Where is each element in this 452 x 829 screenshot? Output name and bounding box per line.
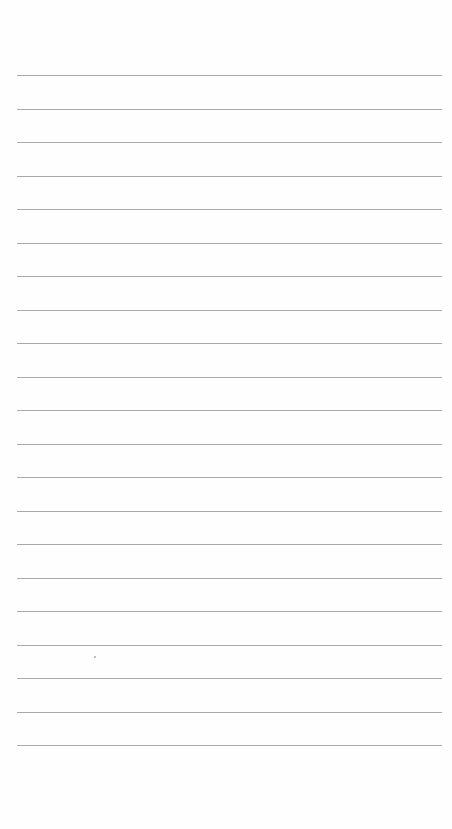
ruled-line: [17, 477, 442, 478]
ruled-line: [17, 142, 442, 143]
ruled-line: [17, 109, 442, 110]
ruled-line: [17, 712, 442, 713]
ruled-line: [17, 176, 442, 177]
ruled-line: [17, 645, 442, 646]
ruled-line: [17, 611, 442, 612]
ruled-line: [17, 243, 442, 244]
ruled-line: [17, 444, 442, 445]
ruled-line: [17, 75, 442, 76]
ruled-line: [17, 745, 442, 746]
paper-speck: [94, 656, 96, 658]
ruled-line: [17, 544, 442, 545]
lined-paper-sheet: [0, 0, 452, 829]
ruled-line: [17, 276, 442, 277]
ruled-line: [17, 578, 442, 579]
ruled-line: [17, 678, 442, 679]
ruled-line: [17, 511, 442, 512]
ruled-line: [17, 410, 442, 411]
ruled-line: [17, 377, 442, 378]
ruled-line: [17, 343, 442, 344]
ruled-line: [17, 209, 442, 210]
ruled-line: [17, 310, 442, 311]
